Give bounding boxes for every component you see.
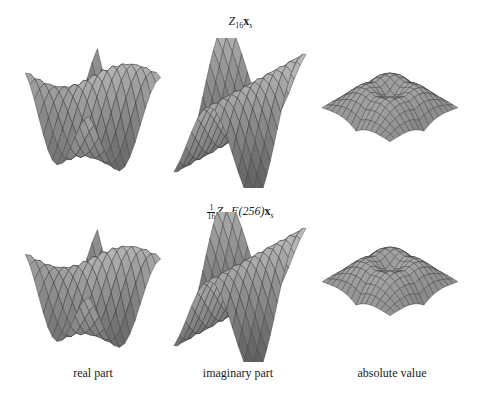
- title-vector-subscript: s: [249, 21, 252, 30]
- surface-plot-absolute-top: [315, 38, 465, 188]
- surface-plot-imaginary-top: [165, 38, 315, 188]
- surface-plot-real-bottom: [18, 222, 168, 362]
- surface-plot-real-top: [18, 38, 168, 188]
- surface-plot-absolute-bottom: [315, 212, 465, 362]
- caption-real-part: real part: [23, 366, 163, 381]
- row-title-top: Z16xs: [0, 14, 481, 30]
- caption-absolute-value: absolute value: [322, 366, 462, 381]
- surface-plot-imaginary-bottom: [165, 212, 315, 362]
- caption-imaginary-part: imaginary part: [168, 366, 308, 381]
